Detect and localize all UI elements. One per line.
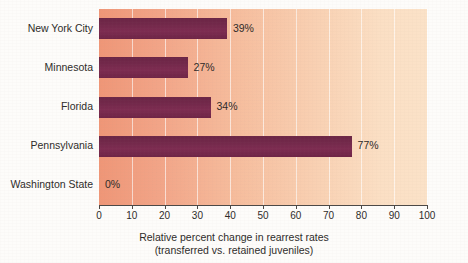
tick-mark-40 <box>230 205 231 209</box>
plot-area <box>99 9 427 205</box>
tick-mark-80 <box>361 205 362 209</box>
chart-figure: New York CityMinnesotaFloridaPennsylvani… <box>0 0 468 263</box>
tick-label-70: 70 <box>323 210 334 221</box>
value-label: 27% <box>194 61 215 73</box>
category-label: Pennsylvania <box>31 139 93 151</box>
value-label: 39% <box>233 22 254 34</box>
category-label: New York City <box>28 22 93 34</box>
bar <box>99 57 188 78</box>
category-label: Florida <box>61 100 93 112</box>
gridline-100 <box>427 9 428 205</box>
bar <box>99 18 227 39</box>
tick-label-10: 10 <box>126 210 137 221</box>
tick-label-20: 20 <box>159 210 170 221</box>
tick-mark-30 <box>197 205 198 209</box>
tick-mark-10 <box>132 205 133 209</box>
x-axis-caption-line-2: (transferred vs. retained juveniles) <box>0 244 468 257</box>
x-axis-caption-line-1: Relative percent change in rearrest rate… <box>0 231 468 244</box>
tick-label-60: 60 <box>290 210 301 221</box>
bar <box>99 97 211 118</box>
value-label: 34% <box>217 100 238 112</box>
value-label: 0% <box>105 178 120 190</box>
category-label: Washington State <box>11 178 94 190</box>
tick-mark-50 <box>263 205 264 209</box>
tick-mark-60 <box>296 205 297 209</box>
tick-label-90: 90 <box>389 210 400 221</box>
tick-mark-20 <box>165 205 166 209</box>
bars-layer <box>99 9 427 205</box>
bar <box>99 136 352 157</box>
tick-label-0: 0 <box>96 210 102 221</box>
tick-mark-0 <box>99 205 100 209</box>
tick-label-100: 100 <box>419 210 436 221</box>
tick-mark-70 <box>329 205 330 209</box>
tick-label-40: 40 <box>225 210 236 221</box>
tick-label-50: 50 <box>257 210 268 221</box>
tick-label-30: 30 <box>192 210 203 221</box>
value-label: 77% <box>358 139 379 151</box>
tick-mark-90 <box>394 205 395 209</box>
tick-mark-100 <box>427 205 428 209</box>
x-axis-caption: Relative percent change in rearrest rate… <box>0 231 468 257</box>
category-label: Minnesota <box>45 61 93 73</box>
tick-label-80: 80 <box>356 210 367 221</box>
